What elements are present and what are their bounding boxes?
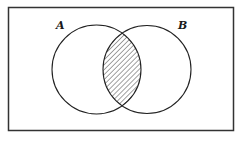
set-b-label: B [177, 19, 187, 32]
set-a-label: A [55, 19, 65, 32]
venn-diagram: A B [0, 0, 244, 142]
